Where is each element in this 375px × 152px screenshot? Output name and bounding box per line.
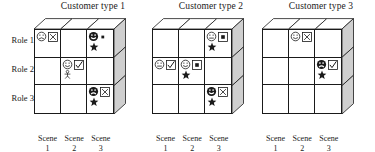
cell-contents — [88, 86, 114, 107]
grid-cell[interactable] — [205, 58, 231, 86]
star-filled-icon — [207, 38, 217, 56]
scene-label-name: Scene — [262, 134, 290, 144]
cube-3d: Scene1Scene2Scene3 — [34, 18, 126, 114]
scene-label: Scene1 — [152, 134, 180, 152]
scene-label-name: Scene — [34, 134, 62, 144]
box-dot-icon — [218, 28, 228, 46]
grid-cell[interactable] — [153, 58, 179, 86]
scene-label-number: 2 — [60, 144, 88, 152]
grid-cell[interactable] — [289, 85, 315, 113]
scene-label-number: 3 — [205, 144, 233, 152]
scene-label-row: Scene1Scene2Scene3 — [152, 134, 232, 152]
panel-title: Customer type 2 — [152, 1, 270, 11]
cell-contents — [88, 31, 114, 52]
scene-label-name: Scene — [288, 134, 316, 144]
scene-label-number: 1 — [152, 144, 180, 152]
customer-journey-figure: Role 1 Role 2 Role 3 Customer type 1Scen… — [0, 0, 375, 152]
star-filled-icon — [207, 93, 217, 111]
grid-cell[interactable] — [315, 30, 341, 58]
grid-cell[interactable] — [205, 85, 231, 113]
cell-contents — [206, 31, 232, 52]
cell-icon-row-secondary — [88, 97, 99, 107]
cell-icon-row-primary — [154, 59, 176, 71]
scene-role-grid — [34, 29, 114, 114]
dot-small-icon — [100, 28, 106, 46]
cell-icon-row-secondary — [316, 70, 327, 80]
cell-icon-row-secondary — [206, 97, 217, 107]
scene-role-grid — [262, 29, 342, 114]
grid-cell[interactable] — [315, 58, 341, 86]
star-filled-icon — [181, 66, 191, 84]
scene-label-name: Scene — [60, 134, 88, 144]
role-label-1: Role 1 — [1, 35, 34, 45]
scene-label-row: Scene1Scene2Scene3 — [34, 134, 114, 152]
grid-cell[interactable] — [87, 85, 113, 113]
cell-contents — [290, 31, 315, 43]
grid-cell[interactable] — [35, 58, 61, 86]
grid-cell[interactable] — [61, 30, 87, 58]
grid-cell[interactable] — [289, 30, 315, 58]
scene-label: Scene1 — [34, 134, 62, 152]
customer-type-panel: Customer type 1Scene1Scene2Scene3 — [34, 0, 152, 152]
grid-cell[interactable] — [61, 58, 87, 86]
grid-cell[interactable] — [35, 85, 61, 113]
grid-cell[interactable] — [289, 58, 315, 86]
grid-cell[interactable] — [87, 30, 113, 58]
cell-icon-row-secondary — [180, 70, 191, 80]
face-sad-outline-icon — [36, 28, 47, 46]
scene-label: Scene3 — [315, 134, 343, 152]
box-check-icon — [328, 56, 338, 74]
cell-icon-row-primary — [290, 31, 312, 43]
grid-cell[interactable] — [179, 85, 205, 113]
scene-role-grid — [152, 29, 232, 114]
cell-icon-row-secondary — [88, 42, 99, 52]
cell-contents — [62, 59, 87, 80]
scene-label-number: 3 — [315, 144, 343, 152]
customer-type-panel: Customer type 3Scene1Scene2Scene3 — [262, 0, 375, 152]
scene-label-number: 1 — [34, 144, 62, 152]
scene-label-number: 3 — [87, 144, 115, 152]
grid-cell[interactable] — [179, 58, 205, 86]
cell-icon-row-secondary — [62, 70, 72, 80]
scene-label-name: Scene — [178, 134, 206, 144]
panel-title: Customer type 3 — [262, 1, 375, 11]
scene-label: Scene3 — [87, 134, 115, 152]
cube-3d: Scene1Scene2Scene3 — [262, 18, 354, 114]
box-check-icon — [166, 56, 176, 74]
cell-contents — [180, 59, 205, 80]
scene-label-name: Scene — [152, 134, 180, 144]
scene-label: Scene2 — [288, 134, 316, 152]
grid-cell[interactable] — [35, 30, 61, 58]
role-label-2: Role 2 — [1, 64, 34, 74]
box-x-icon — [302, 28, 312, 46]
grid-cell[interactable] — [315, 85, 341, 113]
cell-contents — [316, 59, 342, 80]
panel-title: Customer type 1 — [34, 1, 152, 11]
customer-type-panel: Customer type 2Scene1Scene2Scene3 — [152, 0, 270, 152]
cell-icon-row-primary — [36, 31, 58, 43]
cell-contents — [154, 59, 179, 71]
scene-label: Scene2 — [60, 134, 88, 152]
grid-cell[interactable] — [87, 58, 113, 86]
scene-label: Scene3 — [205, 134, 233, 152]
face-smile-outline-icon — [290, 28, 301, 46]
grid-cell[interactable] — [61, 85, 87, 113]
cell-contents — [36, 31, 61, 43]
grid-cell[interactable] — [153, 85, 179, 113]
box-check-icon — [74, 56, 84, 74]
grid-cell[interactable] — [263, 58, 289, 86]
cell-icon-row-secondary — [206, 42, 217, 52]
grid-cell[interactable] — [205, 30, 231, 58]
cube-3d: Scene1Scene2Scene3 — [152, 18, 244, 114]
scene-label: Scene1 — [262, 134, 290, 152]
scene-label-number: 2 — [288, 144, 316, 152]
grid-cell[interactable] — [153, 30, 179, 58]
role-label-3: Role 3 — [1, 93, 34, 103]
grid-cell[interactable] — [179, 30, 205, 58]
grid-cell[interactable] — [263, 30, 289, 58]
box-dot-icon — [192, 56, 202, 74]
grid-cell[interactable] — [263, 85, 289, 113]
star-filled-icon — [317, 66, 327, 84]
box-x-icon — [218, 83, 228, 101]
scene-label-name: Scene — [87, 134, 115, 144]
